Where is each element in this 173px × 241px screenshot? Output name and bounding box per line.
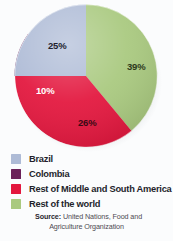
legend: Brazil Colombia Rest of Middle and South… bbox=[0, 151, 173, 211]
legend-label-brazil: Brazil bbox=[29, 154, 53, 164]
legend-swatch-rest-of-world bbox=[11, 199, 21, 209]
legend-swatch-rest-middle-south-america bbox=[11, 184, 21, 194]
legend-item-brazil[interactable]: Brazil bbox=[0, 151, 173, 166]
source-text-line-1: United Nations, Food and bbox=[63, 212, 142, 221]
legend-label-colombia: Colombia bbox=[29, 169, 69, 179]
pie-svg: 39% 26% 10% 25% bbox=[0, 0, 173, 152]
legend-item-rest-middle-south-america[interactable]: Rest of Middle and South America bbox=[0, 181, 173, 196]
pie-label-rest-of-world: 39% bbox=[127, 61, 146, 72]
source-prefix: Source: bbox=[35, 212, 61, 221]
legend-swatch-colombia bbox=[11, 169, 21, 179]
source-line-1: Source: United Nations, Food and bbox=[0, 212, 173, 222]
legend-swatch-brazil bbox=[11, 154, 21, 164]
pie-label-brazil: 25% bbox=[48, 40, 67, 51]
legend-label-rest-of-world: Rest of the world bbox=[29, 199, 100, 209]
source-line-2: Agriculture Organization bbox=[0, 222, 173, 232]
pie-chart-figure: 39% 26% 10% 25% Brazil Colombia Rest of … bbox=[0, 0, 173, 241]
legend-item-colombia[interactable]: Colombia bbox=[0, 166, 173, 181]
source-note: Source: United Nations, Food and Agricul… bbox=[0, 212, 173, 231]
pie-label-colombia: 10% bbox=[36, 85, 55, 96]
pie-label-rest-middle-south-america: 26% bbox=[78, 117, 97, 128]
legend-item-rest-of-world[interactable]: Rest of the world bbox=[0, 196, 173, 211]
pie-chart-graphic: 39% 26% 10% 25% bbox=[0, 0, 173, 152]
legend-label-rest-middle-south-america: Rest of Middle and South America bbox=[29, 184, 172, 194]
